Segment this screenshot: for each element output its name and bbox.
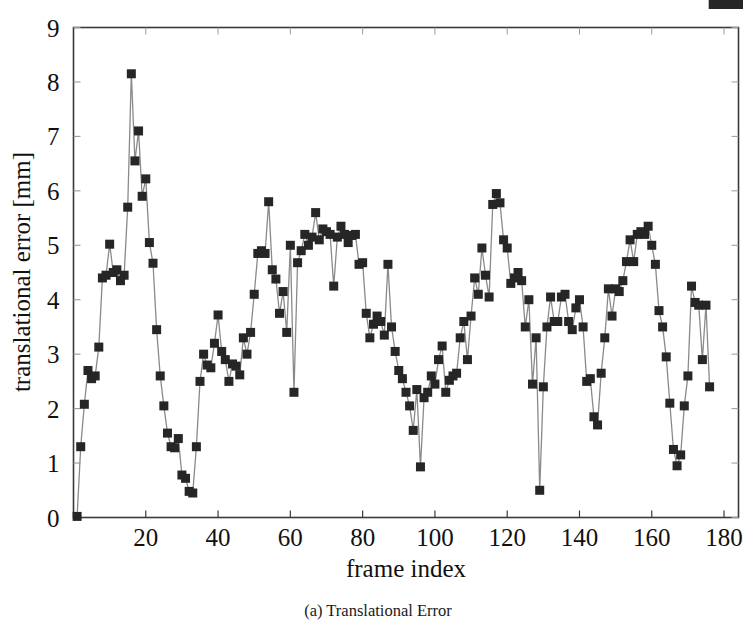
data-point-marker	[282, 328, 291, 337]
y-tick-label: 5	[47, 232, 60, 259]
data-point-marker	[279, 287, 288, 296]
data-point-marker	[141, 174, 150, 183]
data-point-marker	[477, 244, 486, 253]
data-point-marker	[210, 339, 219, 348]
data-point-marker	[264, 197, 273, 206]
data-point-marker	[687, 282, 696, 291]
data-point-marker	[561, 290, 570, 299]
data-point-marker	[564, 317, 573, 326]
data-point-marker	[423, 388, 432, 397]
y-axis-title: translational error [mm]	[8, 152, 35, 392]
data-point-marker	[380, 331, 389, 340]
data-point-marker	[499, 235, 508, 244]
y-tick-label: 4	[47, 287, 60, 314]
data-point-marker	[376, 317, 385, 326]
data-point-marker	[286, 241, 295, 250]
data-point-marker	[647, 241, 656, 250]
y-tick-label: 0	[47, 505, 60, 532]
data-point-marker	[138, 192, 147, 201]
data-point-marker	[149, 259, 158, 268]
data-point-marker	[261, 249, 270, 258]
data-point-marker	[214, 310, 223, 319]
data-point-marker	[503, 244, 512, 253]
x-axis-tick-labels: 20406080100120140160180	[133, 524, 743, 551]
data-point-marker	[174, 434, 183, 443]
data-point-marker	[405, 401, 414, 410]
data-point-marker	[76, 442, 85, 451]
x-tick-label: 180	[705, 524, 743, 551]
data-point-marker	[336, 222, 345, 231]
x-tick-label: 120	[488, 524, 526, 551]
data-point-marker	[705, 382, 714, 391]
data-point-marker	[683, 371, 692, 380]
data-point-marker	[383, 260, 392, 269]
data-point-marker	[589, 412, 598, 421]
data-point-marker	[698, 355, 707, 364]
data-point-marker	[123, 203, 132, 212]
data-point-marker	[163, 429, 172, 438]
y-axis-tick-labels: 0123456789	[47, 15, 60, 532]
data-point-marker	[579, 322, 588, 331]
data-point-marker	[188, 489, 197, 498]
x-tick-label: 80	[350, 524, 375, 551]
data-point-marker	[192, 442, 201, 451]
data-point-marker	[532, 333, 541, 342]
data-point-marker	[232, 362, 241, 371]
y-tick-label: 8	[47, 69, 60, 96]
data-point-marker	[524, 295, 533, 304]
data-point-marker	[615, 287, 624, 296]
data-point-marker	[271, 275, 280, 284]
data-point-marker	[571, 303, 580, 312]
data-point-marker	[402, 388, 411, 397]
data-point-marker	[412, 385, 421, 394]
data-point-marker	[438, 342, 447, 351]
x-tick-label: 60	[278, 524, 303, 551]
data-point-marker	[434, 355, 443, 364]
data-point-marker	[514, 268, 523, 277]
data-point-marker	[246, 328, 255, 337]
data-point-marker	[365, 333, 374, 342]
data-point-marker	[673, 461, 682, 470]
data-point-marker	[134, 126, 143, 135]
data-point-marker	[600, 333, 609, 342]
data-point-marker	[734, 0, 743, 9]
data-point-marker	[535, 486, 544, 495]
data-point-marker	[662, 352, 671, 361]
data-point-marker	[640, 230, 649, 239]
data-point-marker	[398, 374, 407, 383]
data-point-marker	[145, 238, 154, 247]
data-point-marker	[467, 312, 476, 321]
figure-container: 20406080100120140160180 0123456789 frame…	[0, 0, 755, 628]
data-point-marker	[242, 350, 251, 359]
data-point-marker	[427, 371, 436, 380]
data-point-marker	[329, 282, 338, 291]
data-point-marker	[651, 260, 660, 269]
data-point-marker	[152, 325, 161, 334]
data-point-marker	[452, 369, 461, 378]
data-point-marker	[481, 271, 490, 280]
data-point-marker	[618, 276, 627, 285]
data-point-marker	[217, 347, 226, 356]
data-point-marker	[275, 309, 284, 318]
data-point-marker	[130, 156, 139, 165]
data-point-marker	[105, 240, 114, 249]
data-point-marker	[387, 322, 396, 331]
data-point-marker	[456, 333, 465, 342]
data-point-marker	[250, 290, 259, 299]
data-point-marker	[224, 377, 233, 386]
data-point-marker	[94, 343, 103, 352]
data-point-marker	[470, 273, 479, 282]
data-point-marker	[568, 325, 577, 334]
data-point-marker	[441, 388, 450, 397]
data-point-marker	[73, 512, 82, 521]
data-point-marker	[159, 401, 168, 410]
data-point-marker	[553, 317, 562, 326]
data-point-marker	[539, 382, 548, 391]
data-point-marker	[358, 258, 367, 267]
data-point-marker	[120, 271, 129, 280]
data-point-marker	[170, 443, 179, 452]
data-point-marker	[546, 293, 555, 302]
data-point-marker	[474, 290, 483, 299]
data-point-marker	[409, 426, 418, 435]
data-point-marker	[311, 208, 320, 217]
